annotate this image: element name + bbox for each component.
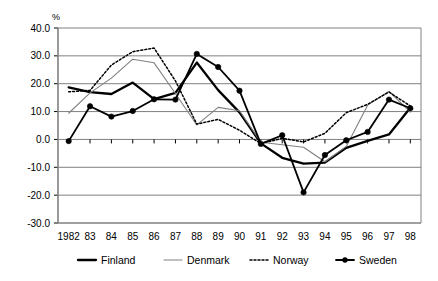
x-axis-tick-label: 91	[255, 231, 267, 242]
data-point-marker-sweden	[280, 133, 285, 138]
data-point-marker-sweden	[322, 152, 327, 157]
data-point-marker-sweden	[109, 114, 114, 119]
y-axis-tick-label: 30.0	[31, 50, 51, 61]
data-point-marker-sweden	[408, 106, 413, 111]
x-axis-tick-label: 96	[362, 231, 374, 242]
legend-marker-sweden	[342, 257, 347, 262]
chart-container: % 40.030.020.010.00.0-10.0-20.0-30.0 198…	[0, 0, 438, 281]
data-point-marker-sweden	[194, 51, 199, 56]
data-point-marker-sweden	[301, 190, 306, 195]
x-axis-tick-label: 88	[191, 231, 203, 242]
legend-label-norway: Norway	[273, 254, 309, 266]
y-axis-tick-label: 0.0	[36, 134, 50, 145]
x-axis-tick-labels: 198283848586878889909192939495969798	[58, 231, 417, 242]
x-axis-tick-label: 89	[213, 231, 225, 242]
data-point-marker-sweden	[237, 88, 242, 93]
y-axis-tick-label: -30.0	[27, 218, 50, 229]
y-axis-tick-label: -10.0	[27, 162, 50, 173]
data-point-marker-sweden	[258, 141, 263, 146]
data-point-marker-sweden	[365, 129, 370, 134]
line-chart: % 40.030.020.010.00.0-10.0-20.0-30.0 198…	[0, 0, 438, 281]
data-point-marker-sweden	[215, 64, 220, 69]
y-axis-unit-label: %	[52, 12, 60, 22]
y-axis-tick-label: 20.0	[31, 78, 51, 89]
x-axis-tick-label: 87	[170, 231, 182, 242]
x-axis-tick-label: 97	[383, 231, 395, 242]
y-axis-tick-label: 40.0	[31, 23, 51, 34]
x-axis-tick-label: 92	[277, 231, 289, 242]
x-axis-tick-label: 1982	[58, 231, 81, 242]
data-point-marker-sweden	[66, 138, 71, 143]
x-axis-tick-label: 84	[106, 231, 118, 242]
data-point-marker-sweden	[386, 97, 391, 102]
data-point-marker-sweden	[130, 108, 135, 113]
y-axis-tick-label: 10.0	[31, 106, 51, 117]
x-axis-tick-label: 94	[319, 231, 331, 242]
x-axis-tick-label: 83	[84, 231, 96, 242]
x-axis-tick-label: 85	[127, 231, 139, 242]
x-axis-tick-label: 86	[149, 231, 161, 242]
legend-label-finland: Finland	[101, 254, 136, 266]
data-point-marker-sweden	[173, 97, 178, 102]
y-axis-tick-label: -20.0	[27, 190, 50, 201]
data-point-marker-sweden	[344, 138, 349, 143]
x-axis-tick-label: 93	[298, 231, 310, 242]
data-point-marker-sweden	[151, 97, 156, 102]
x-axis-tick-label: 90	[234, 231, 246, 242]
legend-label-sweden: Sweden	[359, 254, 397, 266]
legend-label-denmark: Denmark	[187, 254, 230, 266]
data-point-marker-sweden	[87, 104, 92, 109]
x-axis-tick-label: 95	[341, 231, 353, 242]
x-axis-tick-label: 98	[405, 231, 417, 242]
